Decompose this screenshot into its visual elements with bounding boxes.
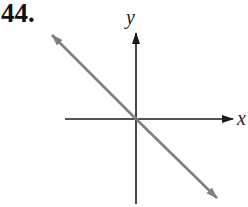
plotted-line bbox=[52, 35, 134, 117]
x-axis-label: x bbox=[236, 107, 246, 129]
graph: y x bbox=[0, 0, 248, 207]
plotted-line-lower bbox=[134, 117, 217, 198]
y-axis-label: y bbox=[124, 6, 135, 29]
